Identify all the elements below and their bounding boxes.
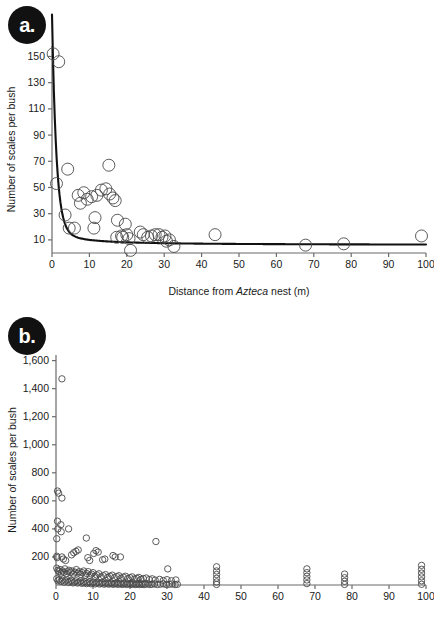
y-tick-label: 1,200 — [23, 410, 49, 422]
data-point-marker — [165, 566, 171, 572]
x-tick-label: 80 — [345, 258, 357, 270]
y-tick-label: 600 — [31, 494, 49, 506]
x-tick-label: 20 — [121, 258, 133, 270]
y-tick-label: 70 — [33, 155, 45, 167]
x-axis-title: Distance from Azteca nest (m) — [168, 285, 309, 297]
data-point-marker — [102, 556, 108, 562]
panel-a: a. 0102030405060708090100103050709011013… — [0, 0, 434, 311]
x-tick-label: 60 — [271, 258, 283, 270]
x-tick-label: 10 — [84, 258, 96, 270]
x-tick-label: 70 — [308, 258, 320, 270]
scientific-figure: a. 0102030405060708090100103050709011013… — [0, 0, 434, 623]
fit-curve — [52, 15, 426, 245]
x-tick-label: 40 — [196, 258, 208, 270]
x-tick-label: 0 — [53, 590, 59, 602]
x-axis-title-pre: Distance from — [168, 285, 236, 297]
data-point-marker — [418, 566, 424, 572]
data-point-marker — [68, 222, 80, 234]
y-tick-label: 1,400 — [23, 382, 49, 394]
data-point-marker — [209, 229, 221, 241]
y-axis-title: Number of scales per bush — [5, 87, 17, 213]
data-point-marker — [65, 526, 71, 532]
panel-a-plot: 0102030405060708090100103050709011013015… — [0, 0, 434, 311]
y-tick-label: 400 — [31, 522, 49, 534]
x-tick-label: 20 — [124, 590, 136, 602]
x-tick-label: 0 — [49, 258, 55, 270]
panel-b-plot: 01020304050607080901002004006008001,0001… — [0, 311, 434, 623]
y-tick-label: 1,600 — [23, 354, 49, 366]
data-point-marker — [153, 538, 159, 544]
x-tick-label: 100 — [417, 258, 434, 270]
data-points — [54, 376, 425, 588]
x-tick-label: 60 — [272, 590, 284, 602]
y-tick-label: 110 — [28, 102, 45, 114]
data-point-marker — [59, 376, 65, 382]
y-tick-label: 130 — [27, 76, 45, 88]
y-axis-title: Number of scales per bush — [6, 407, 18, 533]
x-tick-label: 80 — [346, 590, 358, 602]
data-point-marker — [59, 209, 71, 221]
x-tick-label: 40 — [198, 590, 210, 602]
x-tick-label: 90 — [383, 258, 395, 270]
y-tick-label: 90 — [33, 129, 45, 141]
y-tick-label: 30 — [33, 207, 45, 219]
data-point-marker — [304, 566, 310, 572]
y-tick-label: 50 — [33, 181, 45, 193]
data-point-marker — [53, 56, 65, 68]
x-tick-label: 50 — [235, 590, 247, 602]
y-tick-label: 10 — [33, 233, 45, 245]
data-point-marker — [119, 218, 131, 230]
data-point-marker — [416, 230, 428, 242]
x-tick-label: 30 — [158, 258, 170, 270]
data-point-marker — [60, 556, 66, 562]
data-point-marker — [95, 549, 101, 555]
y-tick-label: 150 — [27, 50, 45, 62]
panel-b: b. 01020304050607080901002004006008001,0… — [0, 311, 434, 623]
x-axis-title-post: nest (m) — [268, 285, 309, 297]
data-point-marker — [418, 570, 424, 576]
data-point-marker — [83, 535, 89, 541]
y-tick-label: 800 — [31, 466, 49, 478]
data-point-marker — [62, 557, 68, 563]
y-tick-label: 200 — [31, 550, 49, 562]
x-tick-label: 100 — [417, 590, 434, 602]
data-point-marker — [62, 163, 74, 175]
data-point-marker — [103, 159, 115, 171]
x-tick-label: 50 — [233, 258, 245, 270]
y-tick-label: 1,000 — [23, 438, 49, 450]
x-tick-label: 70 — [309, 590, 321, 602]
x-tick-label: 30 — [161, 590, 173, 602]
data-point-marker — [54, 536, 60, 542]
data-point-marker — [111, 214, 123, 226]
data-point-marker — [107, 192, 119, 204]
data-points — [47, 48, 427, 257]
x-tick-label: 90 — [383, 590, 395, 602]
data-point-marker — [125, 244, 137, 256]
data-point-marker — [137, 229, 149, 241]
x-tick-label: 10 — [87, 590, 99, 602]
x-axis-title-species: Azteca — [235, 285, 268, 297]
data-point-marker — [59, 495, 65, 501]
